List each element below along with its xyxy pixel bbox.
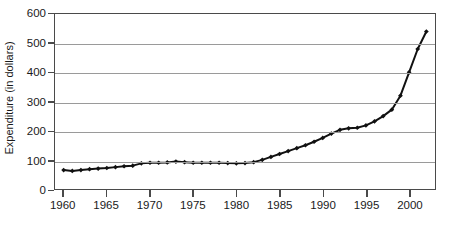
- y-axis-title: Expenditure (in dollars): [0, 0, 18, 195]
- data-point-marker: [294, 146, 299, 151]
- gridline-y-500: [55, 44, 435, 45]
- data-point-marker: [130, 163, 135, 168]
- data-point-marker: [346, 126, 351, 131]
- y-tick-500: 500: [0, 37, 54, 49]
- y-tick-label: 200: [27, 125, 46, 137]
- data-point-marker: [122, 164, 127, 169]
- data-point-marker: [70, 169, 75, 174]
- y-tick-400: 400: [0, 66, 54, 78]
- data-point-marker: [104, 166, 109, 171]
- y-tick-label: 600: [27, 7, 46, 19]
- data-point-marker: [355, 125, 360, 130]
- y-tick-label: 300: [27, 96, 46, 108]
- chart-figure: Expenditure (in dollars) 010020030040050…: [0, 0, 455, 229]
- gridline-y-300: [55, 103, 435, 104]
- series-line-expenditure: [55, 14, 435, 189]
- y-tick-200: 200: [0, 125, 54, 137]
- y-tick-label: 500: [27, 37, 46, 49]
- data-point-marker: [286, 149, 291, 154]
- data-point-marker: [79, 168, 84, 173]
- series-polyline: [64, 32, 427, 171]
- data-point-marker: [269, 155, 274, 160]
- data-point-marker: [113, 165, 118, 170]
- y-tick-label: 400: [27, 66, 46, 78]
- y-tick-label: 100: [27, 155, 46, 167]
- data-point-marker: [277, 152, 282, 157]
- x-tick-mark: [279, 190, 281, 197]
- figure-caption: [30, 216, 450, 229]
- gridline-y-100: [55, 162, 435, 163]
- y-tick-0: 0: [0, 184, 54, 196]
- y-axis-title-text: Expenditure (in dollars): [3, 41, 15, 154]
- plot-area: [54, 13, 436, 190]
- x-tick-mark: [236, 190, 238, 197]
- x-tick-mark: [323, 190, 325, 197]
- x-tick-mark: [366, 190, 368, 197]
- x-tick-mark: [192, 190, 194, 197]
- data-point-marker: [87, 167, 92, 172]
- x-tick-mark: [62, 190, 64, 197]
- y-tick-300: 300: [0, 96, 54, 108]
- data-point-marker: [96, 166, 101, 171]
- x-tick-mark: [149, 190, 151, 197]
- gridline-y-400: [55, 73, 435, 74]
- y-tick-600: 600: [0, 7, 54, 19]
- y-tick-label: 0: [40, 184, 46, 196]
- data-point-marker: [61, 168, 66, 173]
- x-tick-label: 2000: [380, 199, 440, 212]
- x-tick-mark: [106, 190, 108, 197]
- y-tick-100: 100: [0, 155, 54, 167]
- x-tick-mark: [409, 190, 411, 197]
- gridline-y-200: [55, 132, 435, 133]
